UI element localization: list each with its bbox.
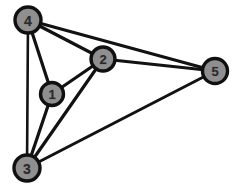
node-label-3: 3 (23, 161, 31, 177)
graph-canvas: 12345 (0, 0, 245, 192)
graph-diagram: 12345 (0, 0, 245, 192)
graph-edge-4-5 (28, 20, 215, 71)
graph-node-2[interactable]: 2 (91, 47, 115, 71)
graph-node-5[interactable]: 5 (203, 59, 228, 84)
node-label-5: 5 (211, 64, 218, 79)
graph-node-4[interactable]: 4 (15, 7, 41, 33)
node-label-1: 1 (48, 87, 55, 102)
graph-node-1[interactable]: 1 (41, 83, 64, 106)
graph-node-3[interactable]: 3 (14, 155, 40, 181)
node-label-4: 4 (24, 13, 32, 29)
node-layer: 12345 (14, 7, 228, 181)
node-label-2: 2 (99, 52, 106, 67)
graph-edge-2-3 (27, 59, 103, 168)
graph-edge-4-3 (27, 20, 28, 168)
